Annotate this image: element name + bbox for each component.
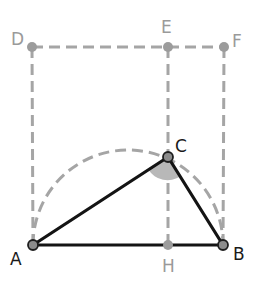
point-D [27,42,37,52]
label-E: E [161,17,172,37]
label-D: D [11,29,24,49]
segment-CB [168,157,223,245]
segment-FB [223,47,224,245]
label-C: C [175,136,187,156]
label-H: H [162,256,175,276]
segment-DA [32,47,33,245]
geometry-diagram: D E F C A B H [0,0,261,286]
point-B [218,240,228,250]
point-F [219,42,229,52]
point-C [163,152,173,162]
label-B: B [233,244,245,264]
segment-AC [33,157,168,245]
point-E [163,42,173,52]
label-F: F [232,31,242,51]
point-A [28,240,38,250]
label-A: A [10,249,22,269]
point-H [163,240,173,250]
